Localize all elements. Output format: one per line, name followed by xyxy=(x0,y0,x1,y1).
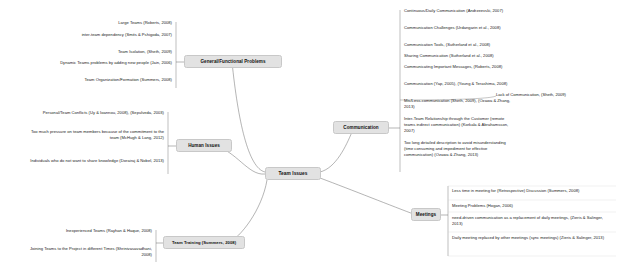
branch-node-general-functional-problems[interactable]: General/Functional Problems xyxy=(184,55,282,68)
leaf-communication-1: Communication Challenges (Urdangarin et … xyxy=(404,25,514,31)
leaf-human-1: Too much pressure on team members becaus… xyxy=(26,129,164,141)
leaf-communication-5: Communication (Yap, 2005), (Young & Tera… xyxy=(404,81,522,87)
branch-label-human: Human Issues xyxy=(188,143,220,148)
link-center-general xyxy=(232,62,265,172)
leaf-training-1: Joining Teams to the Project in differen… xyxy=(20,246,152,258)
branch-node-communication[interactable]: Communication xyxy=(333,121,389,134)
leaf-meetings-3: Daily meeting replaced by other meetings… xyxy=(452,235,612,241)
leaf-general-2: Team Isolation, (Sheth, 2009) xyxy=(30,49,172,55)
leaf-meetings-0: Less time in meeting for (Retrospective)… xyxy=(452,188,612,194)
leaf-communication-3: Sharing Communication (Sutherland et al.… xyxy=(404,53,549,59)
leaf-communication-6: Mis/Less-communication (Sheth, 2009), (O… xyxy=(404,98,516,110)
link-center-meetings xyxy=(320,178,416,215)
leaf-general-1: inter-team dependency (Smits & Pshigoda,… xyxy=(30,32,172,38)
leaf-human-2: Individuals who do not want to share kno… xyxy=(26,158,164,164)
leaf-communication-8: Too long detailed description to avoid m… xyxy=(404,140,516,158)
branch-label-communication: Communication xyxy=(343,125,378,130)
leaf-communication-4: Communicating Important Messages, (Rober… xyxy=(404,64,522,70)
leaf-meetings-2: need-driven communication as a replaceme… xyxy=(452,215,612,227)
mindmap-canvas: Team Issues General/Functional Problems … xyxy=(0,0,622,280)
branch-node-meetings[interactable]: Meetings xyxy=(411,208,441,221)
branch-node-team-training[interactable]: Team Training (Summers, 2008) xyxy=(163,236,245,249)
leaf-training-0: Inexperienced Teams (Rayhan & Haque, 200… xyxy=(20,228,152,234)
annotation-lack-of-communication: Lack of Communication, (Sheth, 2009) xyxy=(496,92,620,98)
center-node-label: Team Issues xyxy=(279,171,308,176)
leaf-general-3: Dynamic Teams problems by adding new peo… xyxy=(25,60,172,66)
leaf-general-0: Large Teams (Roberts, 2008) xyxy=(30,20,172,26)
leaf-human-0: Personal/Team Conflicts (Uy & Ioannou, 2… xyxy=(26,110,164,116)
center-node-team-issues[interactable]: Team Issues xyxy=(265,167,321,180)
branch-node-human-issues[interactable]: Human Issues xyxy=(176,139,232,152)
branch-label-training: Team Training (Summers, 2008) xyxy=(172,240,236,245)
leaf-communication-0: Continuous/Daily Communication (Andrzeev… xyxy=(404,8,514,14)
branch-label-general: General/Functional Problems xyxy=(200,59,265,64)
link-center-training xyxy=(228,180,267,243)
leaf-general-4: Team Organization/Formation (Summers, 20… xyxy=(30,77,172,83)
leaf-communication-2: Communication Tools, (Sutherland et al.,… xyxy=(404,42,549,48)
branch-label-meetings: Meetings xyxy=(416,212,436,217)
link-center-communication xyxy=(320,132,352,172)
leaf-meetings-1: Meeting Problems (Hogan, 2006) xyxy=(452,203,612,209)
leaf-communication-7: Inter-Team Relationship through the Cust… xyxy=(404,116,516,134)
